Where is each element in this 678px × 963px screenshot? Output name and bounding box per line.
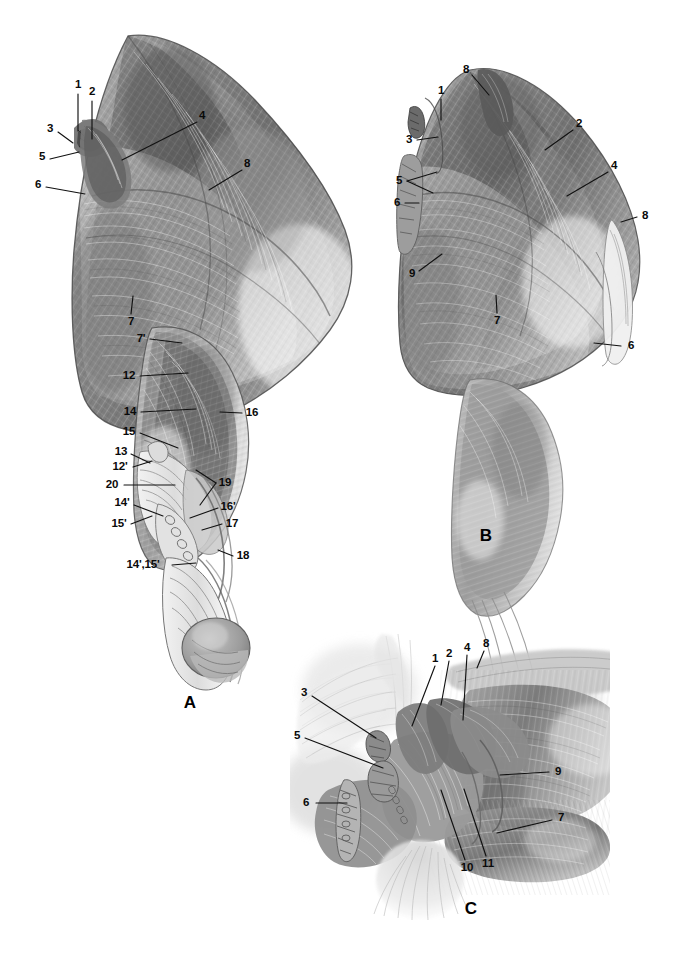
label-a-7: 7 (128, 316, 134, 328)
panel-letter-b: B (480, 526, 492, 546)
label-c-6: 6 (303, 797, 309, 809)
label-a-4: 4 (199, 110, 205, 122)
label-b-1: 1 (438, 85, 444, 97)
label-c-7: 7 (558, 812, 564, 824)
label-b-6: 6 (394, 197, 400, 209)
label-b-9: 9 (409, 268, 415, 280)
label-a-8: 8 (244, 158, 250, 170)
label-c-5: 5 (294, 730, 300, 742)
label-c-1: 1 (432, 653, 438, 665)
label-c-10: 10 (461, 862, 473, 874)
label-b-2: 2 (576, 118, 582, 130)
label-a-12: 12' (113, 461, 128, 473)
label-c-11: 11 (482, 858, 494, 870)
label-c-2: 2 (446, 648, 452, 660)
label-a-16: 16' (221, 501, 236, 513)
label-a-14: 14' (115, 497, 130, 509)
label-b-8: 8 (463, 64, 469, 76)
label-a-7: 7' (137, 333, 146, 345)
label-c-4: 4 (464, 642, 470, 654)
label-b-7: 7 (494, 315, 500, 327)
panel-letter-c: C (465, 899, 477, 919)
label-a-19: 19 (219, 477, 231, 489)
label-layer: 123564877'121415161312'2014'15'1916'1718… (0, 0, 678, 963)
label-a-17: 17 (226, 518, 238, 530)
label-c-9: 9 (555, 766, 561, 778)
panel-letter-a: A (184, 693, 196, 713)
label-a-3: 3 (47, 123, 53, 135)
label-b-3: 3 (406, 134, 412, 146)
label-c-3: 3 (301, 687, 307, 699)
label-a-15: 15' (112, 518, 127, 530)
label-a-12: 12 (123, 370, 135, 382)
label-a-20: 20 (106, 479, 118, 491)
label-a-5: 5 (39, 151, 45, 163)
label-b-4: 4 (611, 160, 617, 172)
label-a-14: 14 (124, 406, 136, 418)
anatomy-plate: 123564877'121415161312'2014'15'1916'1718… (0, 0, 678, 963)
label-a-6: 6 (35, 179, 41, 191)
label-a-15: 15 (123, 426, 135, 438)
label-c-8: 8 (483, 638, 489, 650)
label-b-8: 8 (642, 210, 648, 222)
label-a-16: 16 (246, 407, 258, 419)
label-b-6: 6 (628, 340, 634, 352)
label-a-13: 13 (115, 446, 127, 458)
label-a-2: 2 (89, 86, 95, 98)
label-a-18: 18 (237, 550, 249, 562)
label-a-1415: 14',15' (127, 559, 160, 571)
label-b-5: 5 (396, 175, 402, 187)
label-a-1: 1 (75, 79, 81, 91)
